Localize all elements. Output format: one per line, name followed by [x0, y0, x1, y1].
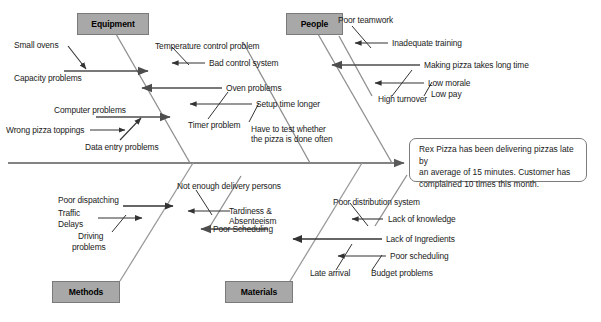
category-box-equipment[interactable]: Equipment [77, 13, 149, 35]
category-box-methods[interactable]: Methods [52, 281, 120, 303]
cause-label-budget-problems: Budget problems [371, 268, 433, 279]
cause-label-not-enough-delivery-persons: Not enough delivery persons [177, 181, 281, 192]
rib-people-secondary [339, 36, 372, 96]
category-box-people[interactable]: People [286, 13, 343, 35]
cause-label-bad-control-system: Bad control system [209, 58, 278, 69]
cause-label-low-pay: Low pay [431, 89, 462, 100]
cause-label-capacity-problems: Capacity problems [14, 73, 82, 84]
fishbone-diagram: Equipment People Methods Materials Small… [0, 0, 601, 322]
cause-label-making-pizza-takes-long-time: Making pizza takes long time [424, 60, 529, 71]
category-label-equipment: Equipment [91, 19, 135, 29]
rib-materials [290, 163, 362, 281]
subbone-small-ovens [68, 46, 86, 69]
cause-label-driving-problems-line2: problems [72, 242, 106, 253]
cause-label-tardiness-line1: Tardiness & [229, 206, 272, 217]
cause-label-poor-scheduling-methods: Poor Scheduling [213, 224, 273, 235]
category-label-people: People [301, 19, 329, 29]
cause-label-wrong-pizza-toppings: Wrong pizza toppings [6, 125, 84, 136]
subbone-poor-teamwork [352, 26, 371, 48]
cause-label-timer-problem: Timer problem [188, 120, 240, 131]
cause-label-poor-scheduling-materials: Poor scheduling [390, 251, 449, 262]
subbone-data-entry-problems [120, 118, 141, 140]
cause-label-lack-of-ingredients: Lack of Ingredients [386, 234, 455, 245]
subbone-late-arrival [336, 244, 352, 270]
cause-label-low-morale: Low morale [428, 78, 470, 89]
cause-label-traffic: Traffic [58, 208, 80, 219]
cause-label-delays: Delays [58, 219, 83, 230]
cause-label-oven-problems: Oven problems [226, 83, 282, 94]
cause-label-poor-distribution-system: Poor distribution system [333, 197, 420, 208]
cause-label-driving-problems-line1: Driving [78, 231, 103, 242]
cause-label-inadequate-training: Inadequate training [392, 38, 462, 49]
problem-statement-line2: an average of 15 minutes. Customer has [419, 167, 578, 179]
subbone-timer-problem [208, 92, 228, 119]
cause-label-high-turnover: High turnover [378, 94, 427, 105]
cause-label-computer-problems: Computer problems [54, 105, 126, 116]
cause-label-have-to-test-line2: the pizza is done often [251, 134, 333, 145]
problem-statement-line3: complained 10 times this month. [419, 179, 578, 191]
cause-label-lack-of-knowledge: Lack of knowledge [388, 214, 456, 225]
category-box-materials[interactable]: Materials [225, 281, 293, 303]
cause-label-have-to-test-line1: Have to test whether [251, 124, 326, 135]
cause-label-data-entry-problems: Data entry problems [85, 142, 159, 153]
category-label-materials: Materials [241, 287, 277, 297]
cause-label-late-arrival: Late arrival [310, 268, 350, 279]
problem-statement-box: Rex Pizza has been delivering pizzas lat… [409, 138, 587, 182]
cause-label-poor-teamwork: Poor teamwork [338, 15, 393, 26]
cause-label-small-ovens: Small ovens [14, 40, 59, 51]
problem-statement-line1: Rex Pizza has been delivering pizzas lat… [419, 144, 578, 167]
cause-label-poor-dispatching: Poor dispatching [58, 195, 119, 206]
category-label-methods: Methods [69, 287, 104, 297]
cause-label-temperature-control-problem: Temperature control problem [155, 41, 259, 52]
cause-label-setup-time-longer: Setup time longer [256, 99, 320, 110]
